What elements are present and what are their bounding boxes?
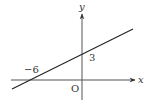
origin-label: O	[71, 83, 79, 94]
coordinate-graph: x y O 3 −6	[0, 0, 160, 112]
y-axis-label: y	[78, 1, 85, 12]
x-axis-label: x	[138, 74, 144, 85]
y-intercept-label: 3	[89, 52, 95, 63]
x-intercept-label: −6	[24, 64, 39, 75]
